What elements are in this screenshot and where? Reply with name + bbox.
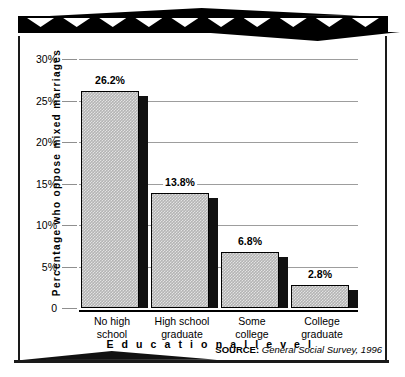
y-axis-tick-label: 10% [36,219,57,231]
bar-value-label: 13.8% [163,176,197,188]
x-axis-baseline [79,310,358,312]
band-notch-triangle [244,18,271,27]
band-notch-triangle [63,18,90,27]
gridline [79,59,358,60]
band-notch-triangle [135,18,162,27]
y-axis-tick-label: 25% [36,95,57,107]
frame-bottom-rule [14,360,389,363]
source-note: SOURCE: General Social Survey, 1996 [160,344,382,355]
band-notch-triangle [280,18,307,27]
band-notch-triangle [99,18,126,27]
y-axis-tick [62,59,77,60]
bar-value-label: 2.8% [306,268,334,280]
y-axis-tick [62,101,77,102]
y-axis-tick-label: 15% [36,178,57,190]
y-axis-tick [62,142,77,143]
bar-shadow [209,198,218,308]
bar-value-label: 6.8% [236,235,264,247]
bar [81,91,139,308]
x-axis-category-label: No highschool [94,315,130,340]
bar [151,193,209,308]
x-axis-category-label: Somecollege [235,315,268,340]
category-label-line: High school [155,315,210,328]
y-axis-tick-label: 20% [36,136,57,148]
source-value: General Social Survey, 1996 [262,344,382,355]
y-axis-tick-label: 5% [42,261,57,273]
x-axis-category-label: High schoolgraduate [155,315,210,340]
band-notch-triangle [352,18,379,27]
band-notch-triangle [316,18,343,27]
chart-figure: Percentage who oppose mixed marriages 30… [0,0,405,377]
x-axis-category-label: Collegegraduate [301,315,342,340]
bar-value-label: 26.2% [93,74,127,86]
top-black-bar [18,16,388,33]
y-axis-tick [62,267,77,268]
bar-shadow [139,96,148,308]
y-axis-tick [62,184,77,185]
y-axis-tick [62,225,77,226]
bar [221,252,279,308]
bar-shadow [279,257,288,308]
band-notch-triangle [171,18,198,27]
source-label: SOURCE: [215,344,259,355]
top-ornament-band [18,8,388,38]
y-axis-tick [62,308,77,309]
band-notch-triangle [27,18,54,27]
frame-left-rule [18,36,20,360]
category-label-line: College [301,315,342,328]
y-axis-tick-label: 0 [51,302,57,314]
bar [291,285,349,308]
category-label-line: Some [235,315,268,328]
y-axis-tick-label: 30% [36,53,57,65]
top-wedge-lower-shape [204,32,400,41]
plot-area: 30%25%20%15%10%5%026.2%No highschool13.8… [62,58,358,310]
bar-shadow [349,290,358,308]
category-label-line: No high [94,315,130,328]
frame-right-rule [385,36,387,360]
band-notch-triangle [208,18,235,27]
y-axis-title: Percentage who oppose mixed marriages [51,28,62,318]
